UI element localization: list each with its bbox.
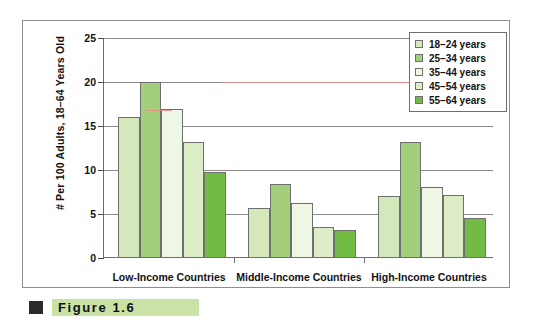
y-axis-tick — [98, 126, 104, 127]
legend-swatch-icon — [415, 96, 423, 104]
bar-group — [118, 38, 226, 257]
y-axis-tick-label: 0 — [70, 253, 96, 264]
y-axis-tick-label: 25 — [70, 33, 96, 44]
legend-item[interactable]: 25–34 years — [415, 51, 501, 65]
legend-swatch-icon — [415, 68, 423, 76]
bar[interactable] — [140, 82, 162, 257]
y-axis-tick — [98, 38, 104, 39]
bar[interactable] — [443, 195, 465, 257]
bar-group — [248, 38, 356, 257]
caption-bullet-icon — [29, 301, 43, 314]
legend-item[interactable]: 18–24 years — [415, 37, 501, 51]
chart-legend: 18–24 years25–34 years35–44 years45–54 y… — [409, 32, 507, 112]
bar[interactable] — [378, 196, 400, 257]
x-axis-category-label: High-Income Countries — [364, 271, 494, 283]
figure-frame: # Per 100 Adults, 18–64 Years Old 051015… — [22, 20, 510, 288]
y-axis-tick-label: 20 — [70, 77, 96, 88]
x-axis-category-label: Middle-Income Countries — [234, 271, 364, 283]
bar[interactable] — [421, 187, 443, 257]
bar[interactable] — [204, 172, 226, 257]
legend-item-label: 35–44 years — [429, 67, 486, 78]
bar[interactable] — [118, 117, 140, 257]
y-axis-tick-label: 15 — [70, 121, 96, 132]
legend-item[interactable]: 45–54 years — [415, 79, 501, 93]
bar[interactable] — [291, 203, 313, 257]
scan-artifact-line — [146, 110, 172, 111]
y-axis-title: # Per 100 Adults, 18–64 Years Old — [54, 8, 66, 238]
bar[interactable] — [464, 218, 486, 257]
y-axis-tick-label: 5 — [70, 209, 96, 220]
legend-swatch-icon — [415, 82, 423, 90]
legend-item[interactable]: 55–64 years — [415, 93, 501, 107]
x-axis-group-separator — [234, 257, 235, 263]
y-axis-tick — [98, 258, 104, 259]
bar-group-bars — [248, 38, 356, 257]
bar[interactable] — [313, 227, 335, 257]
legend-item[interactable]: 35–44 years — [415, 65, 501, 79]
legend-swatch-icon — [415, 40, 423, 48]
y-axis-tick-label: 10 — [70, 165, 96, 176]
legend-item-label: 18–24 years — [429, 39, 486, 50]
legend-item-label: 55–64 years — [429, 95, 486, 106]
bar[interactable] — [248, 208, 270, 257]
bar-group-bars — [118, 38, 226, 257]
legend-item-label: 45–54 years — [429, 81, 486, 92]
y-axis-tick — [98, 170, 104, 171]
bar[interactable] — [161, 109, 183, 257]
legend-item-label: 25–34 years — [429, 53, 486, 64]
bar[interactable] — [334, 230, 356, 257]
y-axis-tick — [98, 82, 104, 83]
y-axis-tick — [98, 214, 104, 215]
x-axis-group-separator — [364, 257, 365, 263]
x-axis-category-label: Low-Income Countries — [104, 271, 234, 283]
bar[interactable] — [183, 142, 205, 257]
bar[interactable] — [400, 142, 422, 257]
legend-swatch-icon — [415, 54, 423, 62]
bar[interactable] — [270, 184, 292, 257]
figure-caption: Figure 1.6 — [58, 299, 135, 316]
